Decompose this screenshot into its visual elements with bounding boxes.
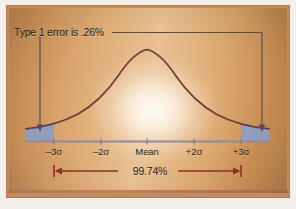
callout-leader-right: [112, 33, 265, 133]
callout-leader-left: [37, 36, 43, 132]
span-arrowhead-left: [55, 168, 63, 175]
axis-label-minus-2-sigma: –2σ: [86, 146, 116, 157]
axis-label-plus-3-sigma: +3σ: [226, 146, 256, 157]
axis-label-mean: Mean: [127, 146, 167, 157]
axis-label-minus-3-sigma: –3σ: [39, 146, 69, 157]
figure-root: Type 1 error is .26% –3σ –2σ Mean +2σ +3…: [0, 0, 296, 209]
normal-distribution-curve: [26, 50, 269, 129]
span-label-99-74-percent: 99.74%: [118, 165, 182, 177]
span-arrowhead-right: [233, 168, 241, 175]
axis-label-plus-2-sigma: +2σ: [179, 146, 209, 157]
type-1-error-callout-label: Type 1 error is .26%: [14, 26, 104, 38]
